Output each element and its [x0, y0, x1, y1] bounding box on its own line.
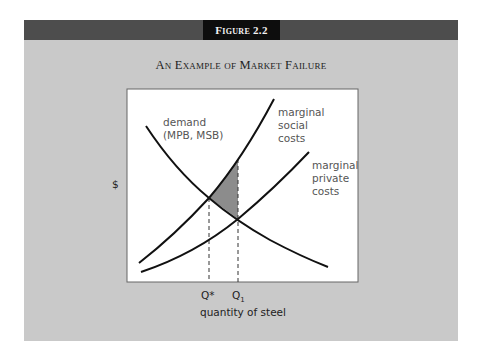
q-star-tick-label: Q*	[201, 289, 215, 301]
market-failure-chart: demand (MPB, MSB) marginal social costs …	[0, 0, 482, 361]
y-axis-label: $	[112, 178, 119, 190]
mpc-label-line1: marginal	[312, 159, 358, 171]
demand-label-line1: demand	[163, 116, 206, 128]
q1-tick-label: Q1	[232, 289, 245, 304]
mpc-label-line3: costs	[312, 185, 339, 197]
msc-label-line1: marginal	[278, 106, 324, 118]
mpc-label-line2: private	[312, 172, 349, 184]
demand-label-line2: (MPB, MSB)	[163, 129, 223, 141]
msc-label-line2: social	[278, 119, 308, 131]
msc-label-line3: costs	[278, 132, 305, 144]
x-axis-label: quantity of steel	[200, 306, 286, 318]
q1-tick-main: Q	[232, 289, 240, 301]
q1-tick-subscript: 1	[240, 296, 244, 304]
